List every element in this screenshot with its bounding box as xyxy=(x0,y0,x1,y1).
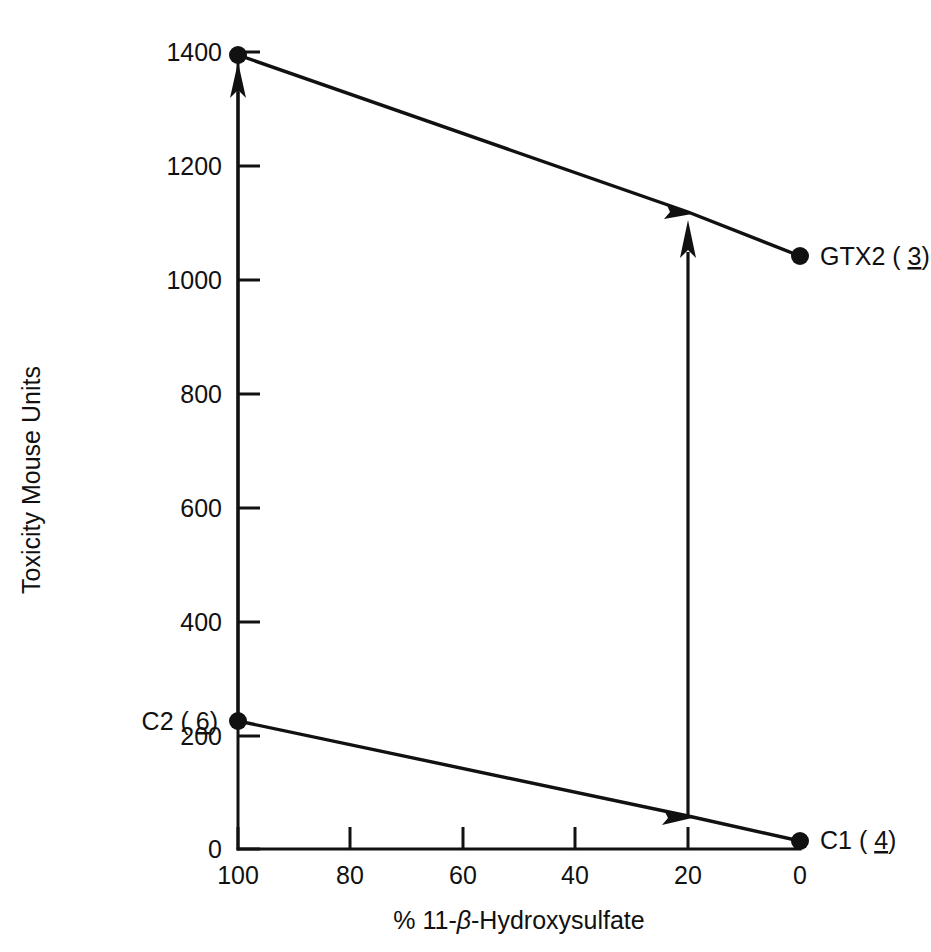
data-label-c1: C1 ( 4) xyxy=(820,826,896,854)
y-tick-label-1000: 1000 xyxy=(166,266,222,294)
y-tick-label-800: 800 xyxy=(180,380,222,408)
data-label-gtx2-prefix: GTX2 ( xyxy=(820,242,908,270)
series-line-c2-c1 xyxy=(238,721,800,841)
x-axis-title-part-1: % 11- xyxy=(393,906,456,934)
vertical-arrow-at-20 xyxy=(680,220,696,816)
y-tick-label-0: 0 xyxy=(208,835,222,863)
x-axis-title-part-2: -Hydroxysulfate xyxy=(471,906,645,934)
y-axis-ticks xyxy=(238,52,260,849)
data-label-c1-suffix: ) xyxy=(888,826,896,854)
data-label-gtx2-number: 3 xyxy=(908,242,922,270)
beta-symbol: β xyxy=(456,906,471,934)
data-label-gtx2: GTX2 ( 3) xyxy=(820,242,930,270)
x-tick-label-0: 0 xyxy=(793,861,807,889)
y-tick-label-1200: 1200 xyxy=(166,152,222,180)
data-label-c1-prefix: C1 ( xyxy=(820,826,874,854)
y-tick-label-1400: 1400 xyxy=(166,38,222,66)
toxicity-line-chart: 1400 1200 1000 800 600 400 200 0 100 80 … xyxy=(0,0,931,952)
data-point-gtx2-at-0 xyxy=(791,247,809,265)
series-line-gtx2 xyxy=(238,55,800,256)
figure-container: 1400 1200 1000 800 600 400 200 0 100 80 … xyxy=(0,0,931,952)
data-label-gtx2-suffix: ) xyxy=(921,242,929,270)
y-axis-tick-labels: 1400 1200 1000 800 600 400 200 0 xyxy=(166,38,222,863)
x-axis-tick-labels: 100 80 60 40 20 0 xyxy=(217,861,807,889)
data-point-c2-at-100 xyxy=(229,712,247,730)
data-label-c2-number: 6 xyxy=(196,707,210,735)
data-label-c1-number: 4 xyxy=(874,826,888,854)
x-axis-title: % 11-β-Hydroxysulfate xyxy=(393,906,644,934)
x-tick-label-20: 20 xyxy=(674,861,702,889)
data-label-c2-prefix: C2 ( xyxy=(142,707,196,735)
data-label-c2: C2 ( 6) xyxy=(142,707,218,735)
x-tick-label-60: 60 xyxy=(449,861,477,889)
axes-frame xyxy=(238,52,800,849)
y-axis-title: Toxicity Mouse Units xyxy=(17,366,45,594)
data-point-gtx2-at-100 xyxy=(229,46,247,64)
data-point-c1-at-0 xyxy=(791,832,809,850)
x-tick-label-80: 80 xyxy=(336,861,364,889)
x-tick-label-40: 40 xyxy=(561,861,589,889)
x-axis-ticks xyxy=(238,827,688,849)
data-label-c2-suffix: ) xyxy=(210,707,218,735)
y-tick-label-600: 600 xyxy=(180,494,222,522)
y-tick-label-400: 400 xyxy=(180,608,222,636)
x-tick-label-100: 100 xyxy=(217,861,259,889)
